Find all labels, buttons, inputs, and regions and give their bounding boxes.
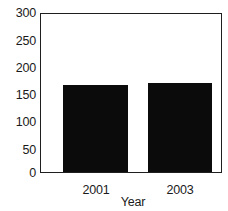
x-axis-label-2001: 2001 [82,184,109,197]
y-axis-label-200: 200 [0,62,36,75]
y-axis-labels: 300 250 200 150 100 50 0 [0,0,36,211]
x-axis-label-2003: 2003 [166,184,193,197]
y-axis-label-300: 300 [0,7,36,20]
x-axis-title: Year [121,196,145,209]
y-axis-label-150: 150 [0,89,36,102]
bar-2001 [63,85,128,172]
y-axis-label-250: 250 [0,35,36,48]
bar-2003 [148,83,212,172]
y-axis-label-0: 0 [0,167,36,180]
y-axis-label-50: 50 [0,144,36,157]
bar-chart: 300 250 200 150 100 50 0 2001 2003 Year [0,0,228,211]
y-axis-label-100: 100 [0,116,36,129]
